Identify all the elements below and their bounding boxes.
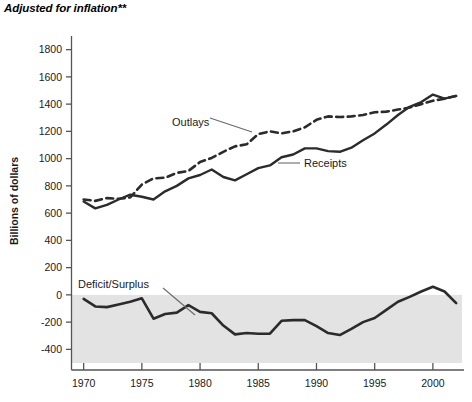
- x-tick-label: 1985: [247, 377, 271, 389]
- series-outlays: [84, 96, 457, 201]
- series-receipts: [84, 95, 457, 209]
- annotation-outlays: Outlays: [172, 116, 210, 128]
- y-tick-label: 1400: [39, 98, 63, 110]
- y-tick-label: 800: [44, 180, 62, 192]
- x-tick-label: 1990: [305, 377, 329, 389]
- annotation-deficit-surplus: Deficit/Surplus: [78, 278, 149, 290]
- x-tick-label: 1995: [363, 377, 387, 389]
- y-tick-label: -400: [41, 343, 62, 355]
- chart-canvas: -400-20002004006008001000120014001600180…: [0, 0, 472, 402]
- y-tick-label: 600: [44, 207, 62, 219]
- chart-figure: Adjusted for inflation** -400-2000200400…: [0, 0, 472, 402]
- y-axis-title: Billions of dollars: [8, 157, 20, 245]
- x-tick-label: 2000: [421, 377, 445, 389]
- annotation-receipts: Receipts: [304, 157, 347, 169]
- x-tick-label: 1970: [72, 377, 96, 389]
- y-tick-label: 400: [44, 234, 62, 246]
- x-tick-label: 1980: [188, 377, 212, 389]
- outlays-leader-line: [210, 118, 252, 132]
- y-tick-label: 1600: [39, 71, 63, 83]
- y-tick-label: 0: [56, 289, 62, 301]
- negative-shade-region: [72, 295, 462, 363]
- y-axis-ticks: -400-20002004006008001000120014001600180…: [39, 43, 72, 355]
- x-tick-label: 1975: [130, 377, 154, 389]
- y-tick-label: -200: [41, 316, 62, 328]
- y-tick-label: 1200: [39, 125, 63, 137]
- y-tick-label: 1800: [39, 43, 63, 55]
- y-tick-label: 1000: [39, 152, 63, 164]
- y-tick-label: 200: [44, 261, 62, 273]
- x-axis-ticks: 1970197519801985199019952000: [72, 363, 445, 389]
